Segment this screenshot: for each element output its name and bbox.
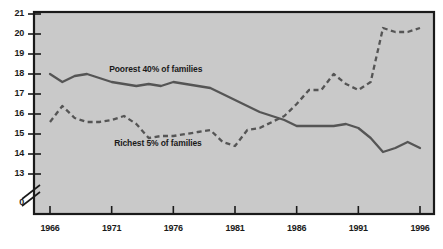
- y-tick-label-17: 17: [0, 88, 24, 98]
- x-tick-label-1976: 1976: [153, 223, 193, 233]
- chart-title-clipped: [0, 0, 443, 5]
- x-tick-label-1996: 1996: [400, 223, 440, 233]
- y-tick-label-14: 14: [0, 148, 24, 158]
- y-tick-label-18: 18: [0, 68, 24, 78]
- y-tick-label-21: 21: [0, 8, 24, 18]
- y-tick-label-19: 19: [0, 48, 24, 58]
- plot-background: [34, 12, 434, 214]
- x-tick-label-1986: 1986: [277, 223, 317, 233]
- x-tick-label-1991: 1991: [338, 223, 378, 233]
- y-tick-label-0: 0: [0, 197, 24, 207]
- y-tick-label-13: 13: [0, 168, 24, 178]
- series-label-poorest-40: Poorest 40% of families: [109, 64, 202, 74]
- y-tick-label-20: 20: [0, 28, 24, 38]
- x-tick-label-1966: 1966: [30, 223, 70, 233]
- series-label-richest-5: Richest 5% of families: [114, 138, 202, 148]
- x-tick-label-1981: 1981: [215, 223, 255, 233]
- x-tick-label-1971: 1971: [92, 223, 132, 233]
- y-tick-label-15: 15: [0, 128, 24, 138]
- y-tick-label-16: 16: [0, 108, 24, 118]
- chart-canvas: [0, 0, 443, 249]
- income-share-line-chart: 2120191817161514130 19661971197619811986…: [0, 0, 443, 249]
